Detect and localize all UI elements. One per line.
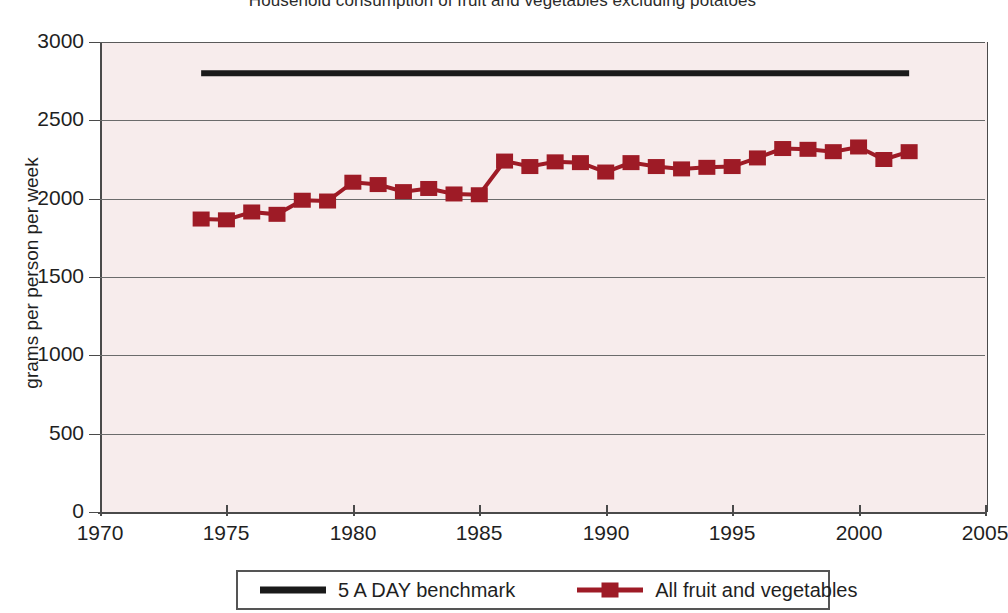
chart-legend: 5 A DAY benchmark All fruit and vegetabl… (236, 570, 830, 610)
legend-label-benchmark: 5 A DAY benchmark (338, 579, 515, 602)
x-axis-line (98, 512, 987, 514)
x-axis-tick (606, 505, 608, 516)
x-axis-tick (732, 505, 734, 516)
y-axis-tick (89, 42, 100, 43)
x-axis-tick-label: 1970 (77, 521, 124, 545)
x-axis-tick (353, 505, 355, 516)
y-axis-tick-label: 500 (49, 421, 84, 445)
y-axis-tick (89, 277, 100, 278)
x-axis-tick (100, 505, 102, 516)
x-axis-tick (985, 505, 987, 516)
x-axis-tick-label: 1995 (709, 521, 756, 545)
y-axis-tick (89, 434, 100, 435)
gridline (100, 277, 985, 278)
legend-swatch-benchmark (260, 581, 326, 599)
x-axis-tick-label: 1985 (456, 521, 503, 545)
x-axis-tick (479, 505, 481, 516)
y-axis-tick (89, 120, 100, 121)
x-axis-tick-label: 1975 (203, 521, 250, 545)
y-axis-tick (89, 199, 100, 200)
legend-item-benchmark: 5 A DAY benchmark (260, 579, 515, 602)
legend-item-all-fruit-and-vegetables: All fruit and vegetables (577, 579, 857, 602)
gridline (100, 355, 985, 356)
gridline (100, 120, 985, 121)
y-axis-tick (89, 355, 100, 356)
legend-swatch-all-fruit-and-vegetables (577, 581, 643, 599)
x-axis-tick-label: 2005 (962, 521, 1008, 545)
y-axis-tick-label: 2500 (37, 107, 84, 131)
gridline (100, 42, 985, 43)
x-axis-tick-label: 1990 (583, 521, 630, 545)
x-axis-tick (226, 505, 228, 516)
y-axis-tick-label: 1000 (37, 342, 84, 366)
gridline (100, 199, 985, 200)
legend-label-all-fruit-and-vegetables: All fruit and vegetables (655, 579, 857, 602)
y-axis-tick-label: 2000 (37, 186, 84, 210)
chart-title: Household consumption of fruit and veget… (0, 0, 1005, 11)
x-axis-tick-label: 2000 (836, 521, 883, 545)
x-axis-tick-label: 1980 (330, 521, 377, 545)
x-axis-tick (859, 505, 861, 516)
gridline (100, 434, 985, 435)
y-axis-tick-label: 3000 (37, 29, 84, 53)
y-axis-tick-label: 0 (72, 499, 84, 523)
y-axis-tick-label: 1500 (37, 264, 84, 288)
